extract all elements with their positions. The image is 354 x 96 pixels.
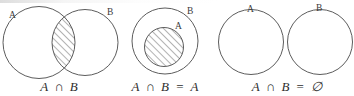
circle-set-a-inner-hatched	[145, 28, 184, 67]
label-set-b-disjoint: B	[316, 3, 322, 13]
caption-equals-sign: =	[297, 79, 304, 94]
caption-right-term: B	[161, 79, 169, 94]
circle-set-b-disjoint	[288, 10, 353, 75]
label-set-b-outer: B	[187, 6, 193, 16]
caption-overlapping: A ∩ B	[39, 79, 78, 94]
label-set-b: B	[107, 7, 113, 17]
caption-right-term: B	[281, 79, 289, 94]
caption-intersect-operator: ∩	[54, 79, 63, 94]
diagram-subset: B A A ∩ B = A	[130, 6, 198, 94]
caption-left-term: A	[130, 79, 139, 94]
circle-set-a-disjoint	[219, 10, 284, 75]
diagram-disjoint: A B A ∩ B = ∅	[219, 3, 353, 94]
diagram-overlapping: A B A ∩ B	[3, 7, 118, 95]
caption-subset: A ∩ B = A	[130, 79, 198, 94]
caption-right-term: B	[70, 79, 78, 94]
caption-equals-sign: =	[176, 79, 183, 94]
caption-intersect-operator: ∩	[145, 79, 154, 94]
venn-diagrams-canvas: A B A ∩ B B A A ∩ B = A	[0, 0, 354, 96]
caption-intersect-operator: ∩	[266, 79, 275, 94]
venn-diagram-figure: A B A ∩ B B A A ∩ B = A	[0, 0, 354, 96]
caption-left-term: A	[251, 79, 260, 94]
label-set-a-disjoint: A	[247, 4, 254, 14]
caption-disjoint: A ∩ B = ∅	[251, 79, 323, 94]
label-set-a-inner: A	[175, 21, 182, 31]
caption-empty-set-symbol: ∅	[311, 79, 323, 94]
caption-left-term: A	[39, 79, 48, 94]
label-set-a: A	[9, 10, 16, 20]
caption-result-term: A	[190, 79, 199, 94]
